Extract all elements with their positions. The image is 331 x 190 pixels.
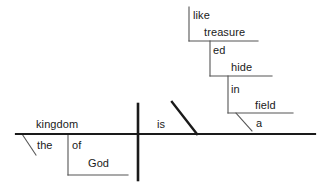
word-like: like bbox=[193, 10, 210, 21]
word-treasure: treasure bbox=[204, 27, 245, 38]
word-a: a bbox=[256, 118, 262, 129]
word-in: in bbox=[231, 84, 240, 95]
word-ed: ed bbox=[213, 45, 225, 56]
word-of: of bbox=[72, 140, 81, 151]
word-kingdom: kingdom bbox=[36, 119, 78, 130]
word-god: God bbox=[88, 158, 109, 169]
sentence-diagram: kingdomtheofGodisliketreasureedhideinfie… bbox=[0, 0, 331, 190]
word-hide: hide bbox=[231, 62, 252, 73]
diagram-canvas bbox=[0, 0, 331, 190]
line-a-slant bbox=[236, 113, 252, 131]
word-is: is bbox=[157, 119, 165, 130]
predicate-complement-slant bbox=[172, 102, 197, 134]
word-field: field bbox=[255, 100, 276, 111]
word-the: the bbox=[37, 140, 53, 151]
line-the-slant bbox=[22, 134, 36, 155]
